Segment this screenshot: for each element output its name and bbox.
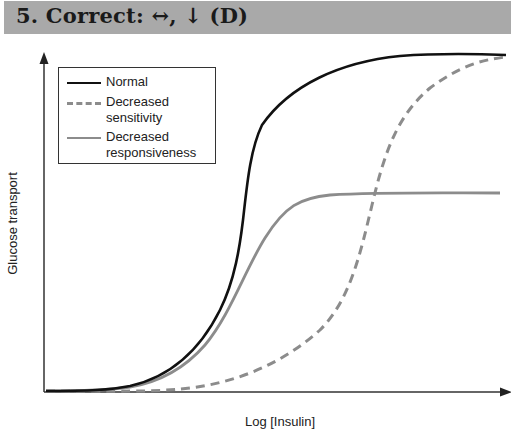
legend-label: Decreased sensitivity <box>106 94 216 126</box>
chart-plot-area <box>0 0 511 432</box>
legend-item-decreased-responsiveness: Decreased responsiveness <box>67 129 216 161</box>
legend-label: Decreased responsiveness <box>106 129 216 161</box>
y-axis-label: Glucose transport <box>5 169 20 279</box>
legend-label: Normal <box>106 74 216 90</box>
x-axis-label: Log [Insulin] <box>200 414 360 429</box>
legend-swatch-solid-gray <box>67 137 101 139</box>
legend-item-decreased-sensitivity: Decreased sensitivity <box>67 94 216 126</box>
legend-swatch-dashed-gray <box>67 102 101 105</box>
chart-legend: Normal Decreased sensitivity Decreased r… <box>58 67 216 164</box>
legend-swatch-solid-black <box>67 82 101 84</box>
legend-item-normal: Normal <box>67 74 216 90</box>
